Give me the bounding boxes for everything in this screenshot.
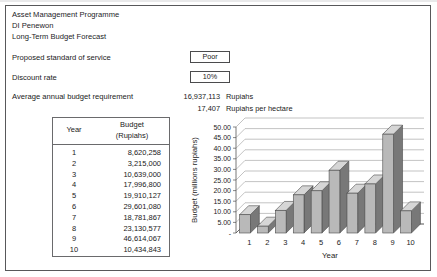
cell-budget: 46,614,067 bbox=[95, 234, 161, 243]
cell-year: 3 bbox=[53, 170, 95, 179]
svg-text:10: 10 bbox=[406, 238, 414, 247]
table-row: 946,614,067 bbox=[53, 234, 169, 245]
cell-budget: 3,215,000 bbox=[95, 159, 161, 168]
cell-year: 8 bbox=[53, 224, 95, 233]
discount-rate-label: Discount rate bbox=[12, 73, 57, 82]
table-header-budget-line1: Budget bbox=[120, 120, 144, 129]
cell-budget: 23,130,577 bbox=[95, 224, 161, 233]
chart-bar bbox=[311, 182, 331, 233]
discount-rate-value[interactable]: 10% bbox=[190, 71, 230, 83]
chart-bar bbox=[257, 217, 277, 233]
svg-text:Budget (millions rupiahs): Budget (millions rupiahs) bbox=[190, 137, 199, 223]
table-row: 718,781,867 bbox=[53, 213, 169, 224]
chart-bar bbox=[401, 202, 421, 233]
svg-text:40.00: 40.00 bbox=[213, 145, 231, 152]
svg-text:25.00: 25.00 bbox=[213, 177, 231, 184]
table-row: 417,996,800 bbox=[53, 180, 169, 191]
field-standard-of-service: Proposed standard of service Poor bbox=[12, 51, 422, 66]
cell-budget: 18,781,867 bbox=[95, 213, 161, 222]
svg-text:3: 3 bbox=[283, 238, 287, 247]
table-header-budget: Budget (Rupiahs) bbox=[95, 120, 169, 141]
budget-table: Year Budget (Rupiahs) 18,620,258 23,215,… bbox=[52, 117, 170, 257]
chart-canvas: -5.0010.0015.0020.0025.0030.0035.0040.00… bbox=[188, 117, 432, 267]
svg-text:4: 4 bbox=[301, 238, 305, 247]
svg-text:6: 6 bbox=[337, 238, 341, 247]
chart-bar bbox=[347, 184, 367, 233]
svg-text:50.00: 50.00 bbox=[213, 124, 231, 131]
cell-year: 6 bbox=[53, 202, 95, 211]
cell-year: 7 bbox=[53, 213, 95, 222]
cell-budget: 29,601,080 bbox=[95, 202, 161, 211]
cell-budget: 10,434,843 bbox=[95, 245, 161, 254]
table-header-year: Year bbox=[53, 125, 95, 134]
cell-year: 4 bbox=[53, 180, 95, 189]
chart-bar bbox=[240, 206, 260, 233]
cell-budget: 8,620,258 bbox=[95, 148, 161, 157]
svg-text:9: 9 bbox=[391, 238, 395, 247]
average-budget-total-unit: Rupiahs bbox=[226, 92, 253, 101]
standard-of-service-value[interactable]: Poor bbox=[190, 51, 230, 63]
title-line-1: Asset Management Programme bbox=[12, 9, 422, 20]
svg-text:35.00: 35.00 bbox=[213, 155, 231, 162]
chart-bar bbox=[383, 125, 403, 233]
cell-year: 2 bbox=[53, 159, 95, 168]
title-line-3: Long-Term Budget Forecast bbox=[12, 31, 422, 42]
average-budget-total: 16,937,113 bbox=[168, 92, 220, 101]
svg-text:5: 5 bbox=[319, 238, 323, 247]
table-header-row: Year Budget (Rupiahs) bbox=[53, 118, 169, 145]
chart-bar bbox=[329, 161, 349, 233]
budget-bar-chart: -5.0010.0015.0020.0025.0030.0035.0040.00… bbox=[188, 117, 432, 267]
cell-year: 10 bbox=[53, 245, 95, 254]
svg-text:8: 8 bbox=[373, 238, 377, 247]
average-budget-row-2: 17,407 Rupiahs per hectare bbox=[12, 104, 422, 116]
document-page: Asset Management Programme DI Penewon Lo… bbox=[0, 0, 437, 277]
title-line-2: DI Penewon bbox=[12, 20, 422, 31]
header-block: Asset Management Programme DI Penewon Lo… bbox=[12, 9, 422, 116]
table-row: 629,601,080 bbox=[53, 202, 169, 213]
svg-text:15.00: 15.00 bbox=[213, 198, 231, 205]
table-row: 18,620,258 bbox=[53, 148, 169, 159]
chart-bar bbox=[275, 201, 295, 233]
table-row: 23,215,000 bbox=[53, 159, 169, 170]
svg-text:30.00: 30.00 bbox=[213, 166, 231, 173]
cell-budget: 10,639,000 bbox=[95, 170, 161, 179]
cell-budget: 19,910,127 bbox=[95, 191, 161, 200]
chart-bar bbox=[365, 175, 385, 233]
table-row: 519,910,127 bbox=[53, 191, 169, 202]
average-budget-row-1: 16,937,113 Rupiahs bbox=[12, 92, 422, 104]
svg-text:45.00: 45.00 bbox=[213, 134, 231, 141]
svg-text:10.00: 10.00 bbox=[213, 208, 231, 215]
cell-year: 5 bbox=[53, 191, 95, 200]
cell-budget: 17,996,800 bbox=[95, 180, 161, 189]
average-budget-per-hectare: 17,407 bbox=[168, 104, 220, 113]
chart-bar bbox=[293, 186, 313, 233]
svg-text:5.00: 5.00 bbox=[217, 219, 231, 226]
svg-text:20.00: 20.00 bbox=[213, 187, 231, 194]
svg-text:-: - bbox=[229, 230, 232, 237]
svg-text:1: 1 bbox=[247, 238, 251, 247]
field-discount-rate: Discount rate 10% bbox=[12, 71, 422, 86]
table-row: 310,639,000 bbox=[53, 170, 169, 181]
svg-text:2: 2 bbox=[265, 238, 269, 247]
average-budget-per-hectare-unit: Rupiahs per hectare bbox=[226, 104, 293, 113]
cell-year: 9 bbox=[53, 234, 95, 243]
table-header-budget-line2: (Rupiahs) bbox=[116, 131, 149, 140]
svg-text:Year: Year bbox=[322, 251, 338, 260]
svg-text:7: 7 bbox=[355, 238, 359, 247]
average-budget-block: Average annual budget requirement 16,937… bbox=[12, 92, 422, 116]
table-row: 823,130,577 bbox=[53, 224, 169, 235]
cell-year: 1 bbox=[53, 148, 95, 157]
scan-edge-artifact bbox=[0, 0, 437, 2]
table-row: 1010,434,843 bbox=[53, 245, 169, 256]
table-body: 18,620,258 23,215,000 310,639,000 417,99… bbox=[53, 145, 169, 256]
standard-of-service-label: Proposed standard of service bbox=[12, 53, 111, 62]
